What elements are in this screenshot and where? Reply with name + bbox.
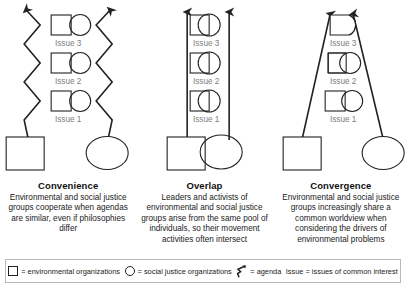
legend-label-environmental: = environmental organizations	[21, 267, 120, 276]
agenda-path-right	[96, 10, 112, 148]
panels-container: Issue 3 Issue 2 Issue 1	[0, 0, 409, 250]
issue-2-label: Issue 2	[193, 77, 220, 86]
overlap-description: Leaders and activists of environmental a…	[138, 193, 270, 245]
legend-item-environmental: = environmental organizations	[8, 266, 120, 276]
convenience-title: Convenience	[2, 180, 134, 192]
base-social-justice-ellipse	[200, 135, 242, 169]
legend-item-agenda: = agenda	[236, 265, 281, 278]
legend-label-agenda: = agenda	[250, 267, 281, 276]
convergence-caption: Convergence Environmental and social jus…	[275, 180, 407, 245]
legend-label-issue: Issue = issues of common interest	[286, 267, 398, 276]
circle-icon	[125, 266, 135, 276]
issue-2-shapes	[51, 53, 91, 74]
legend-label-social-justice: = social justice organizations	[138, 267, 232, 276]
issue-3-label: Issue 3	[55, 39, 82, 48]
issue-1-label: Issue 1	[55, 115, 82, 124]
issue-2-label: Issue 2	[330, 77, 357, 86]
issue-3-shapes	[330, 15, 355, 35]
issue-3-shapes	[190, 14, 220, 36]
base-environmental-square	[6, 137, 44, 170]
convenience-caption: Convenience Environmental and social jus…	[2, 180, 134, 235]
base-social-justice-ellipse	[362, 137, 404, 170]
convergence-diagram-svg: Issue 3 Issue 2 Issue 1	[273, 0, 409, 180]
issue-1-label: Issue 1	[193, 115, 220, 124]
overlap-diagram-svg: Issue 3 Issue 2 Issue 1	[136, 0, 272, 180]
square-icon	[8, 266, 18, 276]
issue-3-label: Issue 3	[330, 39, 357, 48]
agenda-path-right	[353, 14, 383, 139]
panel-overlap: Issue 3 Issue 2 Issue 1	[136, 0, 272, 250]
issue-3-label: Issue 3	[193, 39, 220, 48]
overlap-title: Overlap	[138, 180, 270, 192]
issue-1-label: Issue 1	[330, 115, 357, 124]
overlap-figure: Issue 3 Issue 2 Issue 1	[136, 0, 272, 180]
overlap-caption: Overlap Leaders and activists of environ…	[138, 180, 270, 245]
issue-2-label: Issue 2	[55, 77, 82, 86]
agenda-path-left	[302, 14, 330, 139]
issue-3-shapes	[51, 15, 91, 36]
convergence-description: Environmental and social justice groups …	[275, 193, 407, 245]
legend-item-social-justice: = social justice organizations	[125, 266, 232, 276]
issue-2-shapes	[328, 53, 361, 74]
panel-convergence: Issue 3 Issue 2 Issue 1	[273, 0, 409, 250]
convenience-diagram-svg: Issue 3 Issue 2 Issue 1	[0, 0, 136, 180]
convenience-figure: Issue 3 Issue 2 Issue 1	[0, 0, 136, 180]
base-social-justice-ellipse	[86, 137, 128, 170]
issue-1-shapes	[51, 91, 91, 112]
base-environmental-square	[283, 137, 321, 170]
issue-1-shapes	[325, 91, 363, 112]
legend-item-issue: Issue = issues of common interest	[286, 267, 398, 276]
convenience-description: Environmental and social justice groups …	[2, 193, 134, 235]
panel-convenience: Issue 3 Issue 2 Issue 1	[0, 0, 136, 250]
convergence-title: Convergence	[275, 180, 407, 192]
base-environmental-square	[167, 137, 205, 170]
issue-2-shapes	[190, 52, 220, 74]
issue-1-shapes	[190, 90, 220, 112]
agenda-arrow-icon	[236, 265, 247, 278]
diagram-root: Issue 3 Issue 2 Issue 1	[0, 0, 409, 292]
convergence-figure: Issue 3 Issue 2 Issue 1	[273, 0, 409, 180]
legend: = environmental organizations = social j…	[5, 259, 401, 283]
agenda-path-left	[24, 10, 40, 148]
